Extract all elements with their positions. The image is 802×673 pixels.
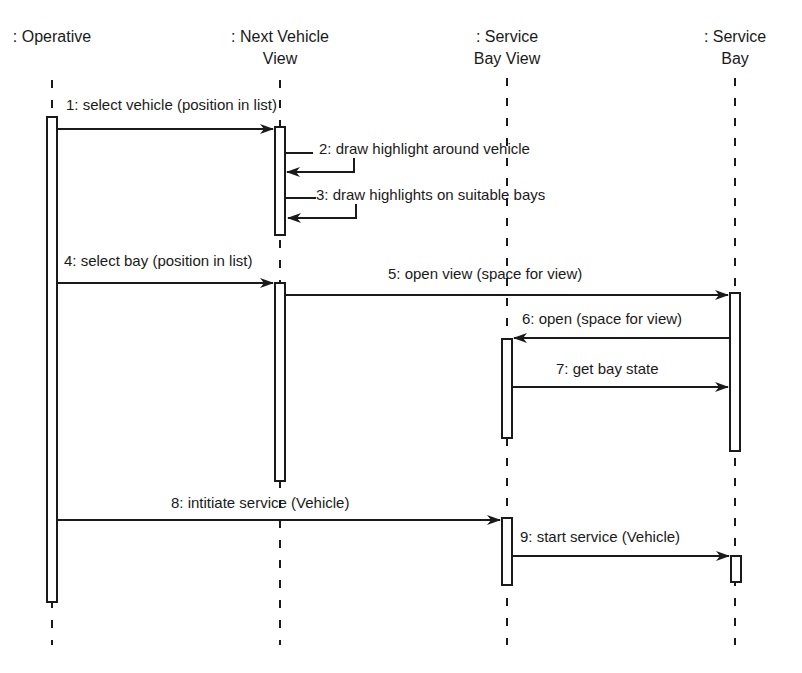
activation-next-vehicle-view-2 (275, 283, 285, 481)
activation-service-bay-view-1 (502, 339, 512, 438)
message-label-3: 3: draw highlights on suitable bays (316, 186, 545, 203)
message-label-8: 8: intitiate service (Vehicle) (171, 494, 349, 511)
message-arrow-2-return (287, 158, 354, 172)
message-label-1: 1: select vehicle (position in list) (66, 96, 277, 113)
message-label-5: 5: open view (space for view) (388, 265, 582, 282)
message-label-4: 4: select bay (position in list) (64, 252, 252, 269)
lifeline-header-service-bay: : Service Bay (704, 28, 766, 67)
activation-service-bay-2 (731, 556, 741, 582)
lifeline-label: : Service (476, 28, 538, 45)
activation-next-vehicle-view-1 (275, 127, 285, 235)
lifeline-label-line2: Bay View (474, 50, 541, 67)
lifeline-label-line2: View (263, 50, 298, 67)
activation-operative (47, 117, 57, 602)
lifeline-header-operative: : Operative (13, 28, 91, 45)
message-label-6: 6: open (space for view) (522, 310, 682, 327)
activation-service-bay-view-2 (502, 518, 512, 585)
message-label-2: 2: draw highlight around vehicle (319, 140, 530, 157)
sequence-diagram: : Operative : Next Vehicle View : Servic… (0, 0, 802, 673)
lifeline-label: : Next Vehicle (231, 28, 329, 45)
activation-service-bay-1 (730, 293, 740, 451)
lifeline-label: : Service (704, 28, 766, 45)
lifeline-header-next-vehicle-view: : Next Vehicle View (231, 28, 329, 67)
lifeline-header-service-bay-view: : Service Bay View (474, 28, 541, 67)
lifeline-label: : Operative (13, 28, 91, 45)
lifeline-label-line2: Bay (721, 50, 749, 67)
message-arrow-3-return (288, 204, 356, 218)
message-label-7: 7: get bay state (556, 360, 659, 377)
message-label-9: 9: start service (Vehicle) (520, 528, 680, 545)
